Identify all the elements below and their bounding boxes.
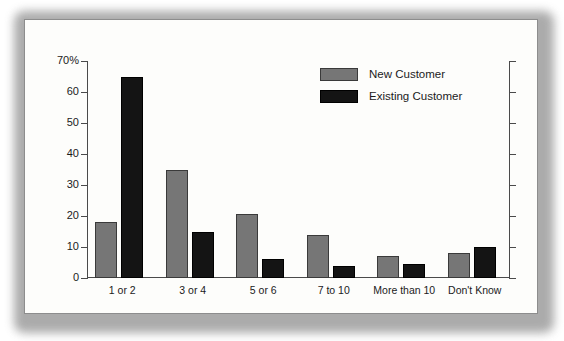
chart-legend: New Customer Existing Customer bbox=[320, 68, 510, 112]
y-axis-tick-label: 0 bbox=[73, 272, 79, 283]
y-axis-tick-label: 50 bbox=[67, 117, 79, 128]
y-axis-tick-mirror bbox=[510, 278, 516, 279]
y-axis-tick-label: 30 bbox=[67, 179, 79, 190]
y-axis-tick-mirror bbox=[510, 154, 516, 155]
bar-existing-customer[interactable] bbox=[121, 77, 143, 279]
y-axis-tick-mirror bbox=[510, 61, 516, 62]
y-axis-tick-label: 40 bbox=[67, 148, 79, 159]
bar-existing-customer[interactable] bbox=[262, 259, 284, 278]
bar-existing-customer[interactable] bbox=[474, 247, 496, 278]
bar-existing-customer[interactable] bbox=[333, 266, 355, 278]
bar-existing-customer[interactable] bbox=[403, 264, 425, 278]
legend-item-new-customer: New Customer bbox=[320, 68, 510, 81]
bar-group bbox=[228, 61, 299, 278]
bar-new-customer[interactable] bbox=[307, 235, 329, 278]
x-axis-category-label: Don't Know bbox=[440, 284, 511, 296]
y-axis-tick-label: 60 bbox=[67, 86, 79, 97]
y-axis-tick-label: 20 bbox=[67, 210, 79, 221]
legend-swatch-new-customer bbox=[320, 68, 358, 81]
legend-label-new-customer: New Customer bbox=[369, 68, 445, 81]
x-axis-category-label: 3 or 4 bbox=[158, 284, 229, 296]
y-axis-tick-mirror bbox=[510, 123, 516, 124]
bar-existing-customer[interactable] bbox=[192, 232, 214, 279]
x-axis-category-label: 5 or 6 bbox=[228, 284, 299, 296]
bar-new-customer[interactable] bbox=[95, 222, 117, 278]
x-axis-category-label: More than 10 bbox=[369, 284, 440, 296]
y-axis-tick-mirror bbox=[510, 185, 516, 186]
y-axis-tick-mirror bbox=[510, 247, 516, 248]
bar-new-customer[interactable] bbox=[236, 214, 258, 278]
legend-label-existing-customer: Existing Customer bbox=[369, 90, 462, 103]
y-axis-tick-labels: 010203040506070% bbox=[35, 61, 79, 279]
bar-new-customer[interactable] bbox=[166, 170, 188, 279]
x-axis-category-labels: 1 or 23 or 45 or 67 to 10More than 10Don… bbox=[87, 284, 510, 300]
y-axis-tick-label: 70% bbox=[57, 55, 79, 66]
legend-item-existing-customer: Existing Customer bbox=[320, 90, 510, 103]
bar-new-customer[interactable] bbox=[377, 256, 399, 278]
y-axis-tick-label: 10 bbox=[67, 241, 79, 252]
chart-panel: 010203040506070% 1 or 23 or 45 or 67 to … bbox=[24, 19, 538, 314]
x-axis-category-label: 7 to 10 bbox=[299, 284, 370, 296]
bar-new-customer[interactable] bbox=[448, 253, 470, 278]
bar-group bbox=[87, 61, 158, 278]
y-axis-tick-mirror bbox=[510, 216, 516, 217]
chart-figure: 010203040506070% 1 or 23 or 45 or 67 to … bbox=[0, 0, 564, 341]
legend-swatch-existing-customer bbox=[320, 90, 358, 103]
bar-group bbox=[158, 61, 229, 278]
y-axis-tick-mirror bbox=[510, 92, 516, 93]
x-axis-category-label: 1 or 2 bbox=[87, 284, 158, 296]
